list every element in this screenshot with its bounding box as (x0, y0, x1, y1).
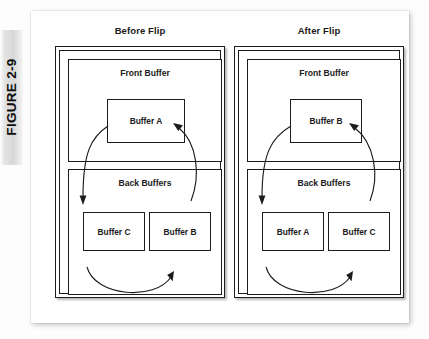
panel-frame-inner-before: Front Buffer Buffer A Back Buffers Buffe… (59, 50, 221, 294)
panel-after-flip: After Flip Front Buffer Buffer B Back Bu… (234, 25, 404, 303)
back-buffers-section-after: Back Buffers Buffer A Buffer C (247, 169, 401, 295)
buffer-box-back-left-before: Buffer C (83, 212, 145, 251)
front-buffer-title-before: Front Buffer (69, 68, 221, 78)
figure-canvas: FIGURE 2-9 Before Flip Front Buffer Buff… (0, 0, 429, 339)
front-buffer-section-before: Front Buffer Buffer A (68, 59, 222, 162)
buffer-box-front-after: Buffer B (290, 99, 362, 143)
front-buffer-title-after: Front Buffer (248, 68, 400, 78)
page-sheet: Before Flip Front Buffer Buffer A Back B… (31, 11, 409, 323)
panel-frame-after: Front Buffer Buffer B Back Buffers Buffe… (234, 46, 404, 298)
figure-label: FIGURE 2-9 (0, 29, 24, 165)
panel-title-before: Before Flip (55, 25, 225, 36)
buffer-box-back-right-after: Buffer C (328, 212, 390, 251)
figure-tab: FIGURE 2-9 (0, 30, 24, 165)
front-buffer-section-after: Front Buffer Buffer B (247, 59, 401, 162)
panel-frame-before: Front Buffer Buffer A Back Buffers Buffe… (55, 46, 225, 298)
panel-title-after: After Flip (234, 25, 404, 36)
panel-before-flip: Before Flip Front Buffer Buffer A Back B… (55, 25, 225, 303)
panel-frame-inner-after: Front Buffer Buffer B Back Buffers Buffe… (238, 50, 400, 294)
buffer-box-back-left-after: Buffer A (262, 212, 324, 251)
back-buffers-title-before: Back Buffers (69, 178, 221, 188)
back-buffers-section-before: Back Buffers Buffer C Buffer B (68, 169, 222, 295)
buffer-box-back-right-before: Buffer B (149, 212, 211, 251)
back-buffers-title-after: Back Buffers (248, 178, 400, 188)
buffer-box-front-before: Buffer A (107, 99, 185, 143)
